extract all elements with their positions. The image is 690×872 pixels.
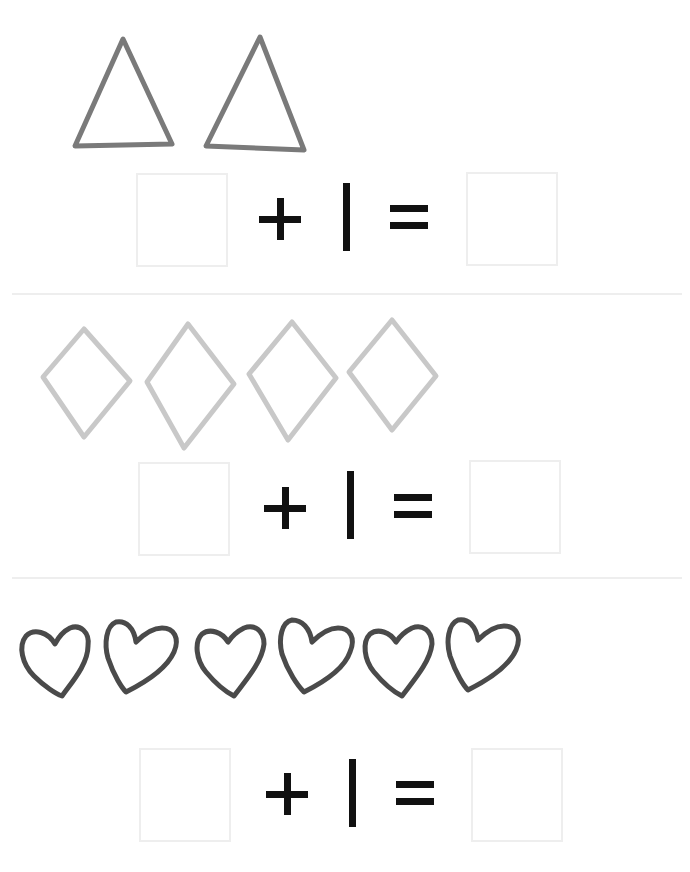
number-one: 1 (349, 759, 356, 827)
plus-sign: + (264, 487, 306, 529)
diamond-icon (244, 318, 340, 444)
triangle-icon (70, 34, 178, 150)
heart-icon (18, 624, 96, 700)
heart-icon (192, 622, 272, 700)
equals-sign: = (394, 494, 432, 518)
heart-icon (102, 616, 182, 700)
plus-sign: + (259, 198, 301, 240)
equals-sign: = (390, 205, 428, 229)
heart-icon (276, 614, 358, 700)
number-one: 1 (343, 183, 350, 251)
divider (12, 293, 682, 295)
number-one: 1 (347, 471, 354, 539)
triangle-icon (202, 32, 310, 154)
answer-box-left[interactable] (139, 748, 231, 842)
divider (12, 577, 682, 579)
answer-box-right[interactable] (469, 460, 561, 554)
answer-box-right[interactable] (466, 172, 558, 266)
answer-box-left[interactable] (136, 173, 228, 267)
answer-box-right[interactable] (471, 748, 563, 842)
heart-icon (444, 614, 524, 698)
diamond-icon (38, 325, 134, 443)
diamond-icon (344, 316, 440, 436)
answer-box-left[interactable] (138, 462, 230, 556)
heart-icon (360, 622, 440, 700)
diamond-icon (142, 320, 238, 452)
equals-sign: = (396, 781, 434, 805)
plus-sign: + (266, 773, 308, 815)
